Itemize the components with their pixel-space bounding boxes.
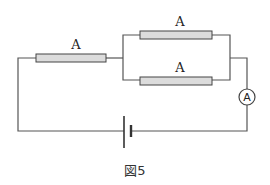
wire-left-loop	[18, 58, 124, 131]
battery-icon	[124, 116, 131, 148]
figure-caption: 図5	[0, 160, 270, 179]
wire-ammeter-to-battery	[131, 105, 247, 131]
circuit-diagram: A A A A	[0, 0, 270, 185]
wire-right-junction	[212, 35, 230, 80]
wires	[18, 35, 247, 131]
resistor-parallel-bottom-label: A	[174, 60, 185, 75]
ammeter-label: A	[243, 91, 251, 104]
resistor-series-label: A	[70, 37, 81, 52]
ammeter-icon: A	[239, 89, 255, 105]
wire-to-ammeter	[230, 58, 247, 89]
resistor-parallel-bottom	[140, 77, 212, 85]
resistor-parallel-top	[140, 31, 212, 39]
resistor-series	[36, 54, 106, 62]
resistor-parallel-top-label: A	[174, 14, 185, 29]
wire-left-junction	[123, 35, 140, 80]
